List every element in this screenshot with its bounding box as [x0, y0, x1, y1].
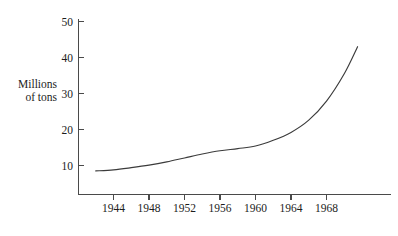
x-tick-marks [114, 195, 327, 201]
y-tick-label-10: 10 [62, 160, 74, 172]
x-tick-label-1964: 1964 [280, 202, 303, 214]
y-axis-title-line-2: of tons [25, 91, 57, 103]
y-tick-label-50: 50 [62, 16, 74, 28]
x-tick-label-1960: 1960 [244, 202, 267, 214]
x-tick-label-1952: 1952 [173, 202, 196, 214]
y-tick-label-30: 30 [62, 88, 74, 100]
y-axis-title: Millions of tons [18, 78, 58, 103]
x-tick-label-1968: 1968 [315, 202, 338, 214]
data-series-line [96, 47, 358, 171]
x-tick-label-1956: 1956 [209, 202, 232, 214]
x-tick-labels: 1944 1948 1952 1956 1960 1964 1968 [102, 202, 338, 214]
x-tick-label-1948: 1948 [138, 202, 161, 214]
y-tick-label-20: 20 [62, 124, 74, 136]
chart-container: 50 40 30 20 10 Millions of tons 1944 194… [0, 0, 398, 236]
line-chart: 50 40 30 20 10 Millions of tons 1944 194… [0, 0, 398, 236]
x-tick-label-1944: 1944 [102, 202, 125, 214]
y-axis-title-line-1: Millions [18, 78, 58, 90]
y-tick-label-40: 40 [62, 52, 74, 64]
y-tick-labels: 50 40 30 20 10 [62, 16, 74, 172]
y-tick-marks [79, 22, 85, 166]
